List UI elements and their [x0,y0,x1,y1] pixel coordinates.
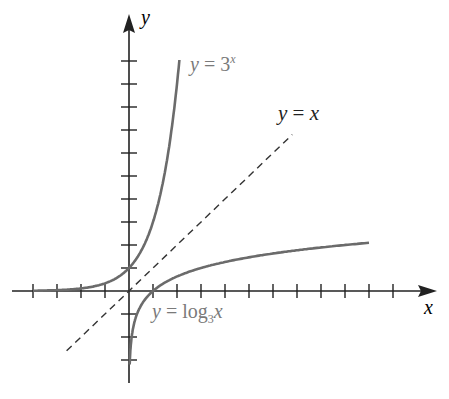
log-curve-label: y = log3x [152,300,223,327]
y-axis-label: y [141,6,150,29]
log-arg: x [214,300,223,322]
x-axis-label: x [424,296,433,319]
identity-line-label: y = x [278,101,319,126]
exp-curve [33,60,179,291]
exp-eq: = [199,53,220,75]
log-lhs: y [152,300,161,322]
exp-base: 3 [220,53,230,75]
identity-rhs: x [310,101,319,125]
log-fn: log [182,300,208,322]
exp-exponent: x [230,52,235,66]
identity-lhs: y [278,101,287,125]
log-eq: = [161,300,182,322]
exp-lhs: y [190,53,199,75]
exp-curve-label: y = 3x [190,52,236,76]
identity-eq: = [287,101,309,125]
